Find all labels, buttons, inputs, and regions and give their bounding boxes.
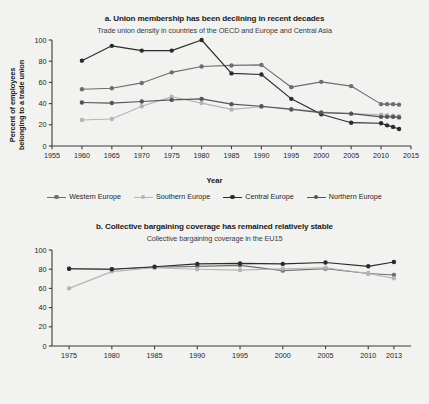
panel-b-title: b. Collective bargaining coverage has re… [0, 222, 429, 231]
svg-text:1995: 1995 [232, 351, 248, 360]
legend-marker-icon [47, 194, 66, 201]
legend-item-label: Northern Europe [329, 193, 382, 201]
legend-item[interactable]: Central Europe [223, 193, 293, 201]
svg-text:1980: 1980 [194, 151, 210, 160]
svg-text:1985: 1985 [224, 151, 240, 160]
svg-text:40: 40 [39, 303, 47, 312]
svg-text:80: 80 [39, 57, 47, 66]
svg-text:2005: 2005 [343, 151, 359, 160]
svg-text:60: 60 [39, 78, 47, 87]
svg-text:1965: 1965 [104, 151, 120, 160]
svg-text:2010: 2010 [373, 151, 389, 160]
svg-text:1990: 1990 [253, 151, 269, 160]
svg-text:2005: 2005 [318, 351, 334, 360]
legend-item-label: Southern Europe [156, 193, 210, 201]
panel-a-plot: 0204060801001955196019651970197519801985… [0, 34, 429, 194]
svg-text:1955: 1955 [44, 151, 60, 160]
svg-text:1970: 1970 [134, 151, 150, 160]
panel-a-title: a. Union membership has been declining i… [0, 14, 429, 23]
svg-text:1990: 1990 [189, 351, 205, 360]
figure-container: a. Union membership has been declining i… [0, 0, 429, 404]
svg-text:20: 20 [39, 322, 47, 331]
svg-text:2015: 2015 [403, 151, 419, 160]
svg-text:1995: 1995 [283, 151, 299, 160]
svg-text:2010: 2010 [360, 351, 376, 360]
chart-panel-a: a. Union membership has been declining i… [0, 0, 429, 210]
svg-text:2000: 2000 [275, 351, 291, 360]
panel-b-plot: 0204060801001975198019851990199520002005… [0, 242, 429, 382]
legend-marker-icon [307, 194, 326, 201]
svg-text:0: 0 [43, 142, 47, 151]
svg-text:0: 0 [43, 342, 47, 351]
svg-text:2000: 2000 [313, 151, 329, 160]
svg-text:20: 20 [39, 120, 47, 129]
svg-text:100: 100 [35, 36, 47, 45]
legend-marker-icon [134, 194, 153, 201]
svg-text:1985: 1985 [147, 351, 163, 360]
svg-text:100: 100 [35, 246, 47, 255]
legend-item-label: Western Europe [69, 193, 121, 201]
svg-text:1980: 1980 [104, 351, 120, 360]
chart-panel-b: b. Collective bargaining coverage has re… [0, 210, 429, 404]
svg-text:1975: 1975 [61, 351, 77, 360]
legend-item[interactable]: Northern Europe [307, 193, 382, 201]
panel-a-x-axis-label: Year [0, 176, 429, 185]
svg-text:1960: 1960 [74, 151, 90, 160]
legend-item[interactable]: Southern Europe [134, 193, 210, 201]
legend-item[interactable]: Western Europe [47, 193, 121, 201]
svg-text:80: 80 [39, 265, 47, 274]
svg-text:2013: 2013 [386, 351, 402, 360]
legend-item-label: Central Europe [245, 193, 293, 201]
svg-text:1975: 1975 [164, 151, 180, 160]
svg-text:40: 40 [39, 99, 47, 108]
panel-a-legend: Western EuropeSouthern EuropeCentral Eur… [0, 193, 429, 201]
legend-marker-icon [223, 194, 242, 201]
svg-text:60: 60 [39, 284, 47, 293]
